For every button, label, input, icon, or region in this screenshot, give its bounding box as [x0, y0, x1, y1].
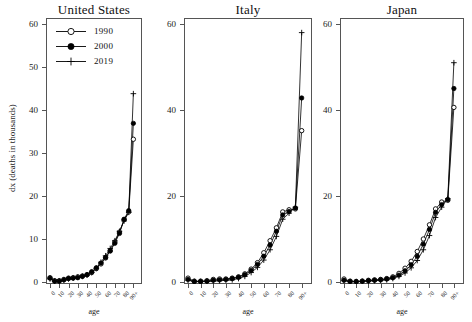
x-axis-tick [201, 284, 202, 288]
x-axis-tick [87, 284, 88, 288]
legend-item-2019[interactable]: 2019 [54, 54, 134, 69]
x-axis-tick [96, 284, 97, 288]
x-axis-tick [417, 284, 418, 288]
panel-united-states: United States010203040506001020304050607… [46, 0, 142, 322]
plus-icon [54, 54, 88, 69]
y-axis-tick-label: 30 [12, 148, 38, 158]
series-layer [184, 18, 312, 284]
x-axis-tick [226, 284, 227, 288]
y-axis-tick-label: 40 [306, 105, 332, 115]
panel-title: Japan [340, 2, 464, 18]
x-axis-tick [454, 284, 455, 288]
y-axis-tick-label: 20 [150, 191, 176, 201]
y-axis-tick-label: 20 [306, 191, 332, 201]
x-axis-tick [188, 284, 189, 288]
y-axis-tick-label: 40 [12, 105, 38, 115]
legend-label: 2019 [94, 54, 113, 69]
x-axis-tick [213, 284, 214, 288]
x-axis-tick [251, 284, 252, 288]
legend-label: 2000 [94, 39, 113, 54]
x-axis-tick [50, 284, 51, 288]
x-axis-tick [239, 284, 240, 288]
y-axis-tick-label: 60 [12, 19, 38, 29]
panel-italy: Italy02040600102030405060708090+age [184, 0, 312, 322]
filled-circle-icon [54, 39, 88, 54]
panel-japan: Japan02040600102030405060708090+age [340, 0, 464, 322]
x-axis-tick [344, 284, 345, 288]
legend-item-2000[interactable]: 2000 [54, 39, 134, 54]
y-axis-tick-label: 40 [150, 105, 176, 115]
x-axis-tick [405, 284, 406, 288]
x-axis-tick [289, 284, 290, 288]
figure-root: dx (deaths in thousands) United States01… [0, 0, 472, 322]
x-axis-tick [429, 284, 430, 288]
x-axis-title: age [46, 307, 142, 316]
y-axis-tick-label: 0 [306, 277, 332, 287]
x-axis-tick [124, 284, 125, 288]
legend: 1990 2000 2019 [54, 24, 134, 69]
x-axis-tick [442, 284, 443, 288]
x-axis-tick [276, 284, 277, 288]
x-axis-tick [78, 284, 79, 288]
y-axis-tick-label: 0 [12, 277, 38, 287]
x-axis-tick [59, 284, 60, 288]
y-axis-tick-label: 20 [12, 191, 38, 201]
y-axis-tick-label: 60 [306, 19, 332, 29]
x-axis-tick [356, 284, 357, 288]
x-axis-tick [264, 284, 265, 288]
open-circle-icon [54, 24, 88, 39]
panel-title: United States [46, 2, 142, 18]
y-axis-tick-label: 10 [12, 234, 38, 244]
x-axis-tick [106, 284, 107, 288]
y-axis-tick-label: 60 [150, 19, 176, 29]
panel-title: Italy [184, 2, 312, 18]
x-axis-tick [69, 284, 70, 288]
legend-item-1990[interactable]: 1990 [54, 24, 134, 39]
x-axis-title: age [184, 307, 312, 316]
x-axis-tick [381, 284, 382, 288]
series-layer [340, 18, 464, 284]
x-axis-tick [302, 284, 303, 288]
x-axis-tick [133, 284, 134, 288]
x-axis-tick [393, 284, 394, 288]
x-axis-tick [115, 284, 116, 288]
legend-label: 1990 [94, 24, 113, 39]
x-axis-title: age [340, 307, 464, 316]
y-axis-tick-label: 0 [150, 277, 176, 287]
y-axis-tick-label: 50 [12, 62, 38, 72]
x-axis-tick [368, 284, 369, 288]
